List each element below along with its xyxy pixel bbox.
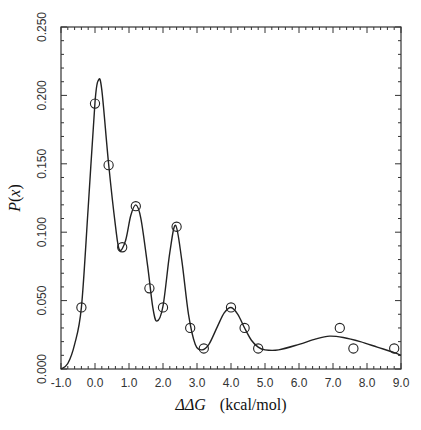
x-tick-label: 1.0 [121, 376, 138, 390]
y-tick-label: 0.250 [35, 12, 49, 42]
y-axis-func: P [6, 202, 23, 213]
x-axis-unit: (kcal/mol) [220, 396, 287, 414]
y-tick-label: 0.100 [35, 217, 49, 247]
fit-curve [61, 79, 401, 369]
y-tick-label: 0.200 [35, 80, 49, 110]
x-tick-label: 6.0 [291, 376, 308, 390]
data-point-marker [390, 344, 399, 353]
x-tick-label: 2.0 [155, 376, 172, 390]
y-tick-labels: 0.0000.0500.1000.1500.2000.250 [35, 12, 49, 384]
x-tick-label: 8.0 [359, 376, 376, 390]
x-tick-label: 7.0 [325, 376, 342, 390]
plot-area [61, 27, 401, 369]
y-tick-label: 0.050 [35, 285, 49, 315]
x-tick-label: 5.0 [257, 376, 274, 390]
y-axis-close: ) [6, 184, 24, 189]
y-axis-var: x [6, 190, 23, 198]
y-tick-label: 0.000 [35, 354, 49, 384]
x-tick-label: 0.0 [87, 376, 104, 390]
data-point-marker [131, 202, 140, 211]
data-point-marker [199, 344, 208, 353]
x-tick-label: 9.0 [393, 376, 410, 390]
x-axis-symbol: ΔΔG [175, 396, 207, 413]
x-tick-label: 3.0 [189, 376, 206, 390]
x-axis-title: ΔΔG (kcal/mol) [175, 396, 287, 414]
x-tick-label: -1.0 [51, 376, 72, 390]
x-tick-label: 4.0 [223, 376, 240, 390]
y-tick-label: 0.150 [35, 148, 49, 178]
data-point-marker [335, 323, 344, 332]
chart: -1.00.01.02.03.04.05.06.07.08.09.0 0.000… [0, 0, 421, 430]
y-axis-title: P(x) [6, 184, 24, 213]
x-tick-labels: -1.00.01.02.03.04.05.06.07.08.09.0 [51, 376, 410, 390]
data-point-marker [349, 344, 358, 353]
